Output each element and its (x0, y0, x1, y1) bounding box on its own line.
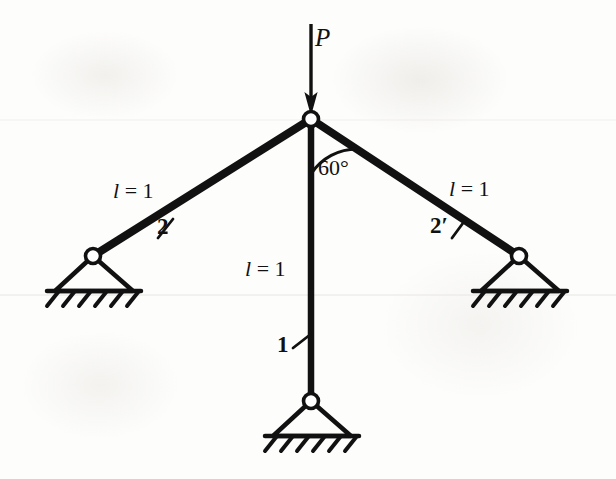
left-member-number: 2 (157, 215, 169, 238)
right-length-value: 1 (479, 176, 490, 201)
vertical-member-length-label: l = 1 (245, 258, 286, 280)
right-length-symbol: l (449, 176, 455, 201)
vertical-member-number: 1 (277, 333, 289, 356)
load-label-P: P (315, 25, 330, 50)
bottom-joint-pin (304, 394, 319, 409)
top-joint (304, 112, 319, 127)
right-length-equals: = (461, 176, 473, 201)
right-joint-pin (512, 249, 527, 264)
angle-label-60: 60° (318, 157, 349, 179)
left-length-symbol: l (113, 178, 119, 203)
truss-members (93, 119, 519, 401)
left-member-length-label: l = 1 (113, 180, 154, 202)
truss-figure: P 60° l = 1 2 l = 1 2′ l = 1 1 (0, 0, 616, 479)
right-member-length-label: l = 1 (449, 178, 490, 200)
vertical-length-equals: = (257, 256, 269, 281)
bottom-support (265, 394, 359, 452)
truss-drawing (0, 0, 616, 479)
vertical-length-symbol: l (245, 256, 251, 281)
right-support (473, 249, 567, 307)
right-member-number: 2′ (430, 214, 448, 237)
left-length-value: 1 (143, 178, 154, 203)
vertical-length-value: 1 (275, 256, 286, 281)
left-joint-pin (86, 249, 101, 264)
top-joint-pin (304, 112, 319, 127)
left-support (47, 249, 141, 307)
left-length-equals: = (125, 178, 137, 203)
leader-right-member (452, 219, 466, 238)
